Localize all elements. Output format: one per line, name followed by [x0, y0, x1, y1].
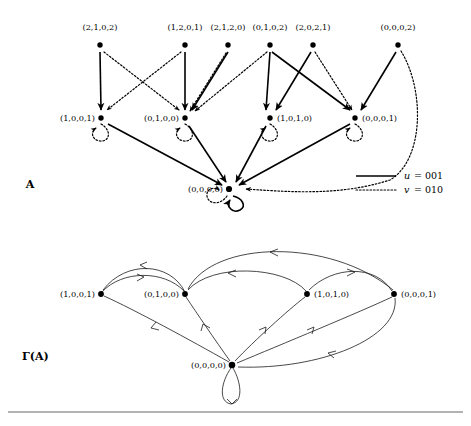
vertex-1010[interactable]: [267, 115, 272, 120]
diagram-A: (2,1,0,2) (1,2,0,1) (2,1,2,0) (0,1,0,2) …: [25, 22, 443, 211]
selfloop-solid-0000: [229, 196, 244, 211]
node-label: (0,0,0,1): [401, 289, 436, 299]
legend-label-u: u: [404, 170, 410, 181]
vertex-gamma-1001[interactable]: [98, 291, 104, 297]
node-label: (2,1,2,0): [210, 22, 245, 32]
arrowhead-0001-to-1010: [347, 269, 355, 276]
gamma-labels: (1,0,0,1) (0,1,0,0) (1,0,1,0) (0,0,0,1) …: [60, 289, 436, 370]
edge-solid-0002-to-0001: [361, 52, 396, 110]
panel-label-A: A: [25, 178, 35, 191]
edge-0001-to-0000: [238, 298, 395, 367]
node-label: (1,0,0,1): [60, 289, 95, 299]
edge-solid-2120-to-0100: [192, 52, 228, 110]
node-label: (1,0,1,0): [277, 113, 312, 123]
edge-solid-2102-to-1001: [100, 52, 101, 110]
top-row-labels: (2,1,0,2) (1,2,0,1) (2,1,2,0) (0,1,0,2) …: [82, 22, 415, 32]
vertex-2120[interactable]: [225, 42, 230, 47]
vertex-0100[interactable]: [182, 115, 187, 120]
arrowhead-0001-to-0100-long: [270, 249, 278, 256]
selfloop-0001: [347, 124, 363, 141]
vertex-gamma-0000[interactable]: [229, 362, 236, 369]
figure-canvas: (2,1,0,2) (1,2,0,1) (2,1,2,0) (0,1,0,2) …: [0, 0, 471, 426]
vertex-1201[interactable]: [182, 42, 187, 47]
edge-solid-1001-to-0000: [108, 124, 222, 185]
node-label: (2,0,2,1): [295, 22, 330, 32]
edge-dotted-2021-to-0001: [315, 52, 352, 110]
node-label: (0,0,0,0): [188, 184, 223, 194]
gamma-vertices: [98, 291, 397, 368]
selfloop-1010: [262, 124, 278, 141]
vertex-2021[interactable]: [310, 42, 315, 47]
edge-0000-to-1010: [235, 297, 305, 361]
edge-dotted-2120-to-0100b: [190, 53, 226, 111]
node-label: (1,0,1,0): [314, 289, 349, 299]
edge-0000-to-0001: [237, 297, 392, 363]
top-row-vertices: [97, 42, 400, 47]
legend-value-v: 010: [425, 184, 443, 195]
dotted-edges-upper: [104, 52, 352, 111]
selfloop-gamma-0000: [222, 368, 240, 404]
vertex-gamma-0100[interactable]: [182, 291, 188, 297]
legend-value-u: 001: [425, 170, 443, 181]
edge-0000-to-1001: [104, 296, 229, 362]
legend-eq-u: =: [414, 170, 422, 181]
node-label: (0,0,0,1): [362, 113, 397, 123]
legend: u = 001 v = 010: [356, 170, 443, 195]
node-label: (0,0,0,0): [191, 360, 226, 370]
node-label: (0,1,0,0): [144, 289, 179, 299]
panel-label-gamma-A: Γ(A): [22, 350, 49, 363]
node-label: (0,0,0,2): [380, 22, 415, 32]
legend-eq-v: =: [414, 184, 422, 195]
selfloop-1001: [93, 124, 109, 141]
edge-solid-0100-to-0000: [189, 126, 226, 182]
vertex-gamma-1010[interactable]: [304, 291, 310, 297]
vertex-gamma-0001[interactable]: [391, 291, 397, 297]
edge-solid-1010-to-0000: [236, 126, 266, 182]
edge-solid-0102-to-0001: [272, 52, 350, 110]
edge-solid-0102-to-1010: [266, 52, 270, 110]
vertex-0002[interactable]: [395, 42, 400, 47]
vertex-0102[interactable]: [267, 42, 272, 47]
arrowhead-0001-to-0000: [328, 351, 336, 358]
edge-dotted-1201-to-1001: [107, 52, 181, 110]
middle-row-vertices: [98, 115, 357, 120]
node-label: (1,2,0,1): [167, 22, 202, 32]
vertex-0001[interactable]: [352, 115, 357, 120]
edge-0000-to-0100: [186, 297, 230, 361]
arc-1010-to-0100: [188, 271, 306, 291]
arrowhead-0000-to-1010: [259, 327, 266, 334]
node-label: (1,0,0,1): [60, 113, 95, 123]
diagram-gamma-A: (1,0,0,1) (0,1,0,0) (1,0,1,0) (0,0,0,1) …: [22, 249, 436, 404]
dotted-self-loops: [93, 124, 363, 141]
edge-solid-2021-to-1010: [276, 52, 311, 110]
node-label: (0,1,0,2): [252, 22, 287, 32]
vertex-1001[interactable]: [98, 115, 103, 120]
legend-label-v: v: [404, 184, 410, 195]
node-label: (0,1,0,0): [144, 113, 179, 123]
middle-row-labels: (1,0,0,1) (0,1,0,0) (1,0,1,0) (0,0,0,1): [60, 113, 397, 123]
node-label: (2,1,0,2): [82, 22, 117, 32]
arc-0100-to-0001-long: [188, 252, 393, 290]
edge-dotted-2102-to-0100: [104, 52, 179, 110]
solid-edges-lower: [108, 124, 350, 185]
edge-solid-0001-to-0000: [239, 124, 350, 185]
arrowhead-0100-to-1001: [140, 262, 147, 269]
vertex-2102[interactable]: [97, 42, 102, 47]
vertex-0000[interactable]: [226, 186, 232, 192]
edge-dotted-0102-to-0100: [195, 52, 267, 111]
